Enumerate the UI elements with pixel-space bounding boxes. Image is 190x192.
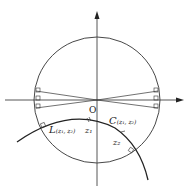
wedge-line-left-upper: [36, 91, 97, 100]
label-L: L(z₁, z₂): [48, 124, 76, 135]
horizontal-axis-arrow-icon: [176, 98, 184, 103]
wedge-line-right-upper: [97, 91, 158, 100]
wedge-line-right-lower: [97, 100, 158, 108]
tick-z2: [121, 131, 125, 132]
label-L-args: (z₁, z₂): [56, 127, 76, 134]
label-C-args: (z₁, z₂): [117, 118, 137, 125]
label-z2: z₂: [112, 138, 120, 147]
diagram-canvas: O L(z₁, z₂) z₁ C(z₁, z₂) z₂: [0, 0, 190, 192]
right-angle-marker: [36, 96, 40, 100]
wedge-line-left-lower: [36, 100, 97, 108]
label-C: C(z₁, z₂): [109, 115, 137, 126]
right-angle-marker: [154, 96, 158, 100]
origin-label: O: [89, 105, 96, 115]
vertical-axis-arrow-icon: [95, 11, 100, 19]
label-z1: z₁: [84, 126, 92, 135]
curve-L: [17, 119, 148, 180]
